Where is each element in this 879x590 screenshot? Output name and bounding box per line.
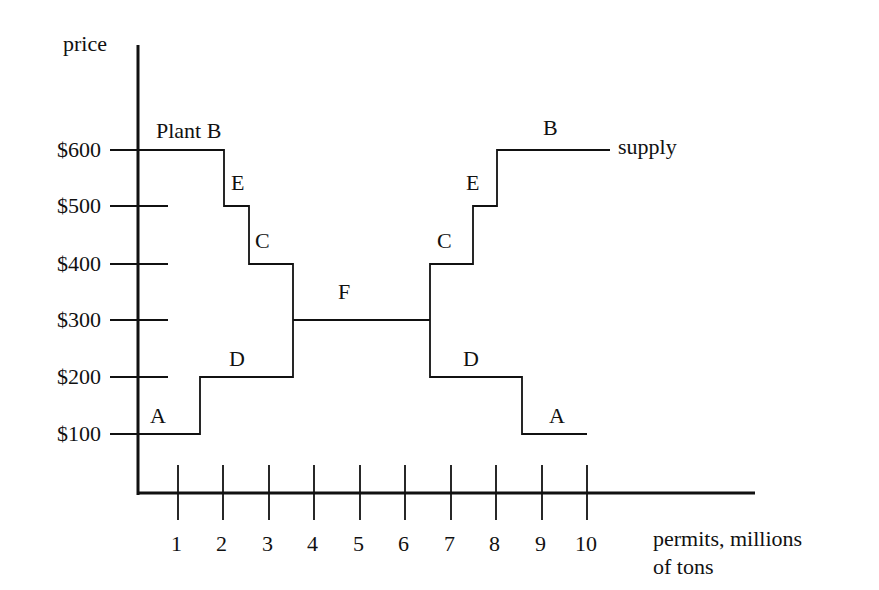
y-tick-label-200: $200: [57, 366, 101, 388]
x-axis-title-line2: of tons: [653, 556, 714, 578]
segment-label-left-a: A: [150, 405, 166, 427]
axes-group: [138, 45, 755, 495]
segment-label-right-b: B: [543, 117, 558, 139]
x-tick-label-8: 8: [489, 533, 500, 555]
y-tick-label-300: $300: [57, 309, 101, 331]
y-axis-title: price: [63, 33, 107, 55]
segment-label-right-e: E: [466, 172, 479, 194]
y-tick-label-400: $400: [57, 253, 101, 275]
x-tick-label-4: 4: [307, 533, 318, 555]
x-tick-label-1: 1: [171, 533, 182, 555]
x-tick-label-5: 5: [353, 533, 364, 555]
ascending-step-curve: [430, 150, 610, 320]
x-tick-label-3: 3: [262, 533, 273, 555]
segment-label-plant-b: Plant B: [156, 120, 221, 142]
x-tick-label-10: 10: [575, 533, 597, 555]
x-tick-label-7: 7: [444, 533, 455, 555]
segment-label-left-d: D: [229, 348, 245, 370]
x-tick-label-6: 6: [398, 533, 409, 555]
chart-figure: $600 $500 $400 $300 $200 $100 price 1 2 …: [0, 0, 879, 590]
supply-curve-label: supply: [618, 136, 677, 158]
segment-label-mid-f: F: [338, 281, 350, 303]
y-tick-label-600: $600: [57, 139, 101, 161]
segment-label-left-c: C: [255, 230, 270, 252]
segment-label-right-d: D: [463, 348, 479, 370]
x-tick-label-9: 9: [535, 533, 546, 555]
segment-label-left-e: E: [231, 172, 244, 194]
step-supply-chart-canvas: [0, 0, 879, 590]
y-tick-label-100: $100: [57, 423, 101, 445]
x-tick-label-2: 2: [216, 533, 227, 555]
x-axis-title-line1: permits, millions: [653, 528, 802, 550]
segment-label-right-c: C: [437, 230, 452, 252]
segment-label-right-a: A: [549, 405, 565, 427]
y-tick-label-500: $500: [57, 195, 101, 217]
